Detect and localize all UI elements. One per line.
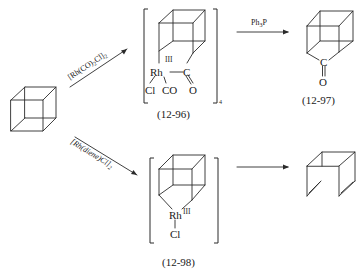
oxidation-state: III bbox=[183, 207, 191, 216]
atom-rh: Rh bbox=[150, 66, 163, 78]
cubane-structure bbox=[11, 87, 56, 131]
oxidation-state: III bbox=[165, 55, 173, 64]
compound-label-12-98: (12-98) bbox=[162, 256, 195, 269]
arrow-bottom-right bbox=[237, 165, 289, 170]
compound-12-96: 4 III Rh C Cl CO O (12-96) bbox=[144, 9, 222, 121]
arrow-ph3p: Ph3P bbox=[237, 18, 289, 35]
compound-12-98: Rh III Cl (12-98) bbox=[150, 155, 218, 269]
product-tricyclooctadiene bbox=[307, 152, 355, 196]
atom-o: O bbox=[319, 76, 327, 88]
reaction-scheme: [Rh(CO)2Cl]2 [Rh(diene)Cl]2 4 III Rh C C… bbox=[0, 0, 361, 278]
atom-cl: Cl bbox=[145, 84, 155, 96]
atom-co: CO bbox=[162, 84, 177, 96]
atom-cl: Cl bbox=[170, 228, 180, 240]
compound-label-12-96: (12-96) bbox=[157, 108, 190, 121]
left-bracket bbox=[150, 158, 154, 243]
atom-c: C bbox=[183, 66, 190, 78]
atom-rh: Rh bbox=[169, 209, 182, 221]
reagent-top-label: [Rh(CO)2Cl]2 bbox=[66, 49, 109, 82]
reagent-ph3p-label: Ph3P bbox=[251, 18, 267, 28]
compound-label-12-97: (12-97) bbox=[302, 94, 335, 107]
atom-c: C bbox=[320, 56, 327, 68]
reagent-bottom-label: [Rh(diene)Cl]2 bbox=[68, 137, 114, 171]
bracket-subscript: 4 bbox=[219, 99, 222, 105]
arrow-rh-co-cl: [Rh(CO)2Cl]2 bbox=[66, 49, 127, 87]
right-bracket bbox=[213, 9, 217, 103]
arrow-rh-diene-cl: [Rh(diene)Cl]2 bbox=[68, 137, 137, 175]
compound-12-97: C O (12-97) bbox=[302, 11, 353, 107]
right-bracket bbox=[214, 158, 218, 243]
atom-o: O bbox=[189, 84, 197, 96]
